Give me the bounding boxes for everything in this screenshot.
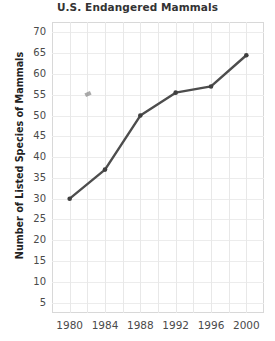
y-axis-tick-label: 45 bbox=[8, 131, 46, 141]
data-series-line bbox=[52, 22, 264, 313]
y-axis-tick-label: 60 bbox=[8, 69, 46, 79]
y-axis-tick-label: 5 bbox=[8, 298, 46, 308]
series-line bbox=[70, 55, 247, 198]
y-axis-tick-label: 30 bbox=[8, 194, 46, 204]
plot-area bbox=[52, 22, 264, 313]
y-axis-tick-label: 10 bbox=[8, 277, 46, 287]
y-axis-tick-label: 15 bbox=[8, 256, 46, 266]
y-axis-tick-label: 55 bbox=[8, 90, 46, 100]
y-axis-tick-label: 25 bbox=[8, 214, 46, 224]
y-axis-tick-label: 65 bbox=[8, 48, 46, 58]
data-point-marker bbox=[209, 84, 214, 89]
data-point-marker bbox=[103, 167, 108, 172]
y-axis-tick-label: 70 bbox=[8, 27, 46, 37]
x-axis-tick-label: 2000 bbox=[223, 320, 269, 331]
y-axis-tick-label: 35 bbox=[8, 173, 46, 183]
y-axis-tick-label: 50 bbox=[8, 111, 46, 121]
y-axis-tick-label: 20 bbox=[8, 235, 46, 245]
data-point-marker bbox=[67, 196, 72, 201]
y-axis-tick-label: 40 bbox=[8, 152, 46, 162]
line-chart: U.S. Endangered Mammals Number of Listed… bbox=[0, 0, 275, 341]
data-point-marker bbox=[173, 90, 178, 95]
data-point-marker bbox=[138, 113, 143, 118]
data-point-marker bbox=[244, 53, 249, 58]
